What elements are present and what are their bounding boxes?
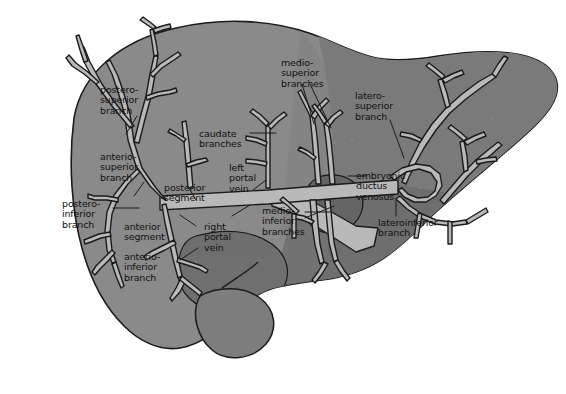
- liver-portal-vein-diagram: postero- superior branch anterio- superi…: [0, 0, 566, 394]
- liver-diagram-canvas: [0, 0, 566, 394]
- caudate-branches: [266, 126, 270, 188]
- figure-caption: [0, 384, 566, 394]
